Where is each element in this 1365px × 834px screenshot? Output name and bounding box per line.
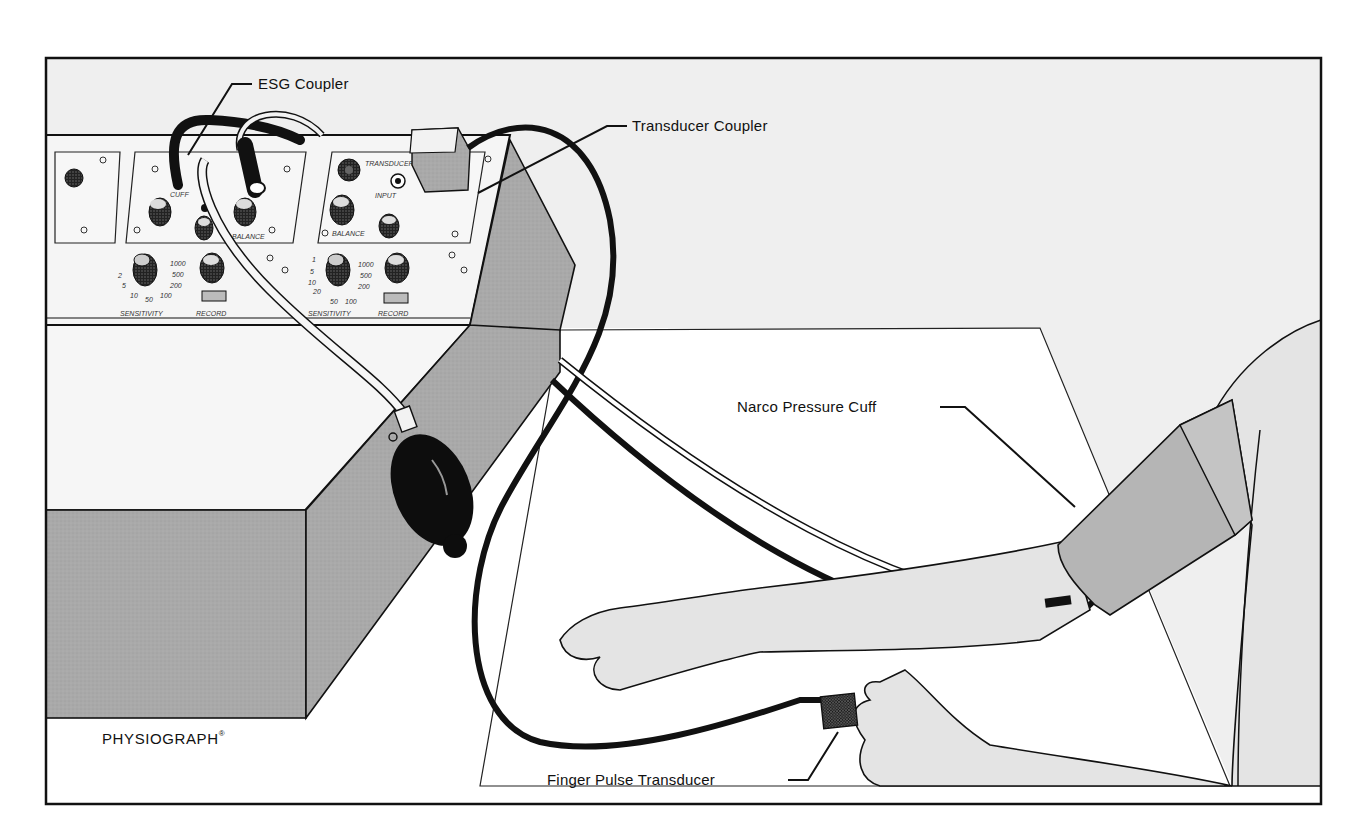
svg-text:200: 200	[357, 283, 370, 290]
svg-text:200: 200	[169, 282, 182, 289]
svg-text:1000: 1000	[170, 260, 186, 267]
svg-text:50: 50	[330, 298, 338, 305]
svg-text:500: 500	[360, 272, 372, 279]
label-narco-pressure-cuff: Narco Pressure Cuff	[737, 398, 876, 415]
esg-balance-label: BALANCE	[232, 233, 265, 240]
svg-text:20: 20	[312, 288, 321, 295]
svg-text:50: 50	[145, 296, 153, 303]
svg-text:500: 500	[172, 271, 184, 278]
label-finger-pulse-transducer: Finger Pulse Transducer	[547, 771, 715, 788]
registered-mark: ®	[219, 729, 226, 738]
svg-text:10: 10	[130, 292, 138, 299]
brand-name: PHYSIOGRAPH	[102, 730, 219, 747]
physiograph-illustration: CUFF BALANCE 1000 500 200 2 5 10 50 100 …	[0, 0, 1365, 834]
svg-text:1: 1	[312, 256, 316, 263]
svg-text:5: 5	[122, 282, 126, 289]
svg-text:100: 100	[345, 298, 357, 305]
svg-text:5: 5	[310, 268, 314, 275]
transducer-input-label: INPUT	[375, 192, 397, 199]
finger-pulse-sleeve	[820, 693, 857, 728]
esg-record-switch	[202, 291, 226, 301]
esg-record-label: RECORD	[196, 310, 226, 317]
svg-text:2: 2	[117, 272, 122, 279]
svg-text:1000: 1000	[358, 261, 374, 268]
label-transducer-coupler: Transducer Coupler	[632, 117, 768, 134]
esg-sensitivity-label: SENSITIVITY	[120, 310, 164, 317]
transducer-port-label: TRANSDUCER	[365, 160, 414, 167]
physiograph-brand: PHYSIOGRAPH®	[102, 730, 225, 747]
transducer-sensitivity-label: SENSITIVITY	[308, 310, 352, 317]
left-module-plate	[55, 152, 120, 243]
physiograph-front-face	[46, 510, 306, 718]
svg-text:100: 100	[160, 292, 172, 299]
label-esg-coupler: ESG Coupler	[258, 75, 349, 92]
transducer-record-switch	[384, 293, 408, 303]
esg-module-plate	[126, 152, 306, 243]
left-module-connector	[65, 169, 83, 187]
transducer-record-label: RECORD	[378, 310, 408, 317]
svg-text:10: 10	[308, 279, 316, 286]
esg-cuff-port-label: CUFF	[170, 191, 189, 198]
transducer-balance-label: BALANCE	[332, 230, 365, 237]
